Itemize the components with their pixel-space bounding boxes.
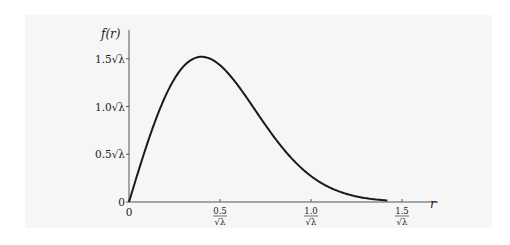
x-tick-label-denominator: √λ [215, 217, 226, 227]
y-tick-label: 0 [118, 196, 125, 208]
y-tick-label: 1.5√λ [95, 53, 125, 65]
curve-f-of-r [129, 57, 387, 202]
x-tick-label-denominator: √λ [306, 217, 317, 227]
x-tick-label-numerator: 1.5 [395, 206, 409, 216]
x-tick-label-denominator: √λ [397, 217, 408, 227]
x-tick-label-numerator: 0.5 [213, 206, 227, 216]
x-tick-label: 0 [126, 206, 133, 218]
x-axis-label: r [430, 197, 437, 211]
y-tick-label: 1.0√λ [95, 101, 125, 113]
axes [129, 30, 438, 202]
chart: 00.5√λ1.0√λ1.5√λ00.5√λ1.0√λ1.5√λ f(r) r [0, 0, 510, 245]
y-tick-label: 0.5√λ [95, 148, 125, 160]
x-tick-label-numerator: 1.0 [304, 206, 318, 216]
ticks: 00.5√λ1.0√λ1.5√λ00.5√λ1.0√λ1.5√λ [95, 53, 409, 227]
y-axis-label: f(r) [100, 27, 121, 41]
